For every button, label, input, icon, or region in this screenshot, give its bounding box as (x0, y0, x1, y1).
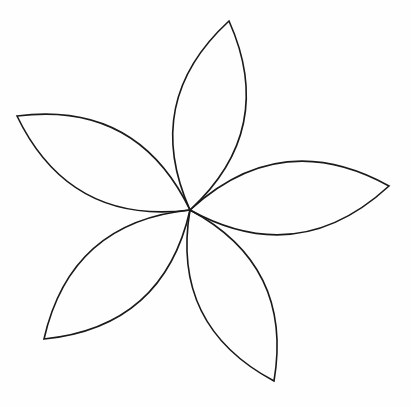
petal-upper-left (17, 114, 190, 212)
petals-group (17, 21, 389, 381)
petal-top (173, 21, 247, 210)
petal-right (190, 161, 389, 235)
petal-lower-left (44, 210, 190, 339)
petal-bottom (187, 210, 277, 381)
flower-drawing (0, 0, 411, 407)
